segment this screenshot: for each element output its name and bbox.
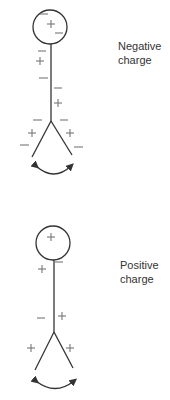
positive-label-line1: Positive <box>120 258 159 272</box>
knob-ball <box>36 226 70 260</box>
leaf-left <box>35 332 54 370</box>
leaf-left <box>32 121 51 157</box>
positive-label-line2: charge <box>120 272 159 286</box>
electroscope-negative <box>20 10 83 174</box>
negative-charge-label: Negative charge <box>118 39 161 67</box>
divergence-arrow <box>36 166 71 174</box>
negative-label-line2: charge <box>118 53 161 67</box>
negative-label-line1: Negative <box>118 39 161 53</box>
divergence-arrow <box>36 381 74 389</box>
knob-ball <box>33 10 67 44</box>
leaf-right <box>51 121 72 155</box>
positive-charge-label: Positive charge <box>120 258 159 286</box>
charge-symbols <box>27 233 74 352</box>
electroscope-positive <box>27 226 74 389</box>
